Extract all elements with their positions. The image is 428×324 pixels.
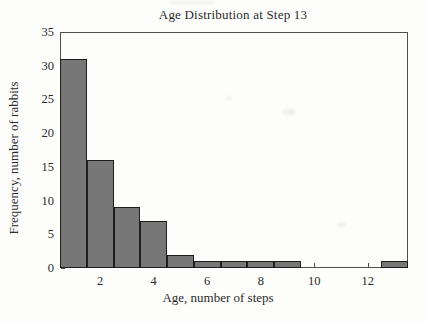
x-axis-label: Age, number of steps <box>98 290 338 306</box>
scan-artifact <box>226 96 232 100</box>
x-tick-label-10: 10 <box>294 273 334 289</box>
y-tick-label-15: 15 <box>22 159 54 175</box>
x-tick-label-6: 6 <box>187 273 227 289</box>
y-tick-label-25: 25 <box>22 91 54 107</box>
x-tick-label-8: 8 <box>241 273 281 289</box>
y-axis-label: Frequency, number of rabbits <box>6 58 22 258</box>
scan-artifact <box>282 108 296 116</box>
x-tick-label-2: 2 <box>80 273 120 289</box>
y-tick-label-0: 0 <box>22 260 54 276</box>
y-tick-0 <box>61 268 65 269</box>
scan-artifact <box>336 222 346 227</box>
y-tick-label-35: 35 <box>22 24 54 40</box>
y-tick-label-5: 5 <box>22 226 54 242</box>
histogram-figure: Age Distribution at Step 13 Frequency, n… <box>0 0 428 324</box>
x-tick-label-4: 4 <box>134 273 174 289</box>
y-tick-label-30: 30 <box>22 58 54 74</box>
y-tick-label-10: 10 <box>22 193 54 209</box>
scan-artifact <box>170 1 214 4</box>
chart-title: Age Distribution at Step 13 <box>63 7 403 23</box>
x-tick-label-12: 12 <box>348 273 388 289</box>
plot-area <box>60 32 408 268</box>
y-tick-label-20: 20 <box>22 125 54 141</box>
